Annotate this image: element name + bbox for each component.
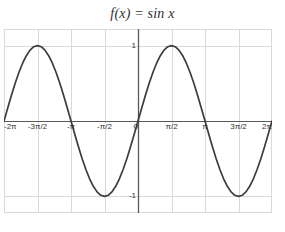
plot-svg [4, 29, 272, 213]
x-tick-label: -π/2 [97, 122, 112, 132]
x-tick-label: -3π/2 [28, 122, 47, 132]
y-tick-label: 1 [132, 41, 136, 51]
chart-title: f(x) = sin x [0, 6, 285, 22]
x-tick-label: -π [67, 122, 75, 132]
x-tick-label: 3π/2 [230, 122, 247, 132]
x-tick-label: π/2 [165, 122, 177, 132]
x-tick-label: 2π [262, 122, 272, 132]
x-tick-label: -2π [4, 122, 17, 132]
plot-area: -2π-3π/2-π-π/20π/2π3π/22π 1-1 [4, 29, 272, 213]
y-tick-label: -1 [129, 191, 136, 201]
sine-function-chart: f(x) = sin x -2π-3π/2-π-π/20π/2π3π/22π 1… [0, 0, 285, 232]
x-tick-label: 0 [134, 122, 138, 132]
x-tick-label: π [202, 122, 208, 132]
